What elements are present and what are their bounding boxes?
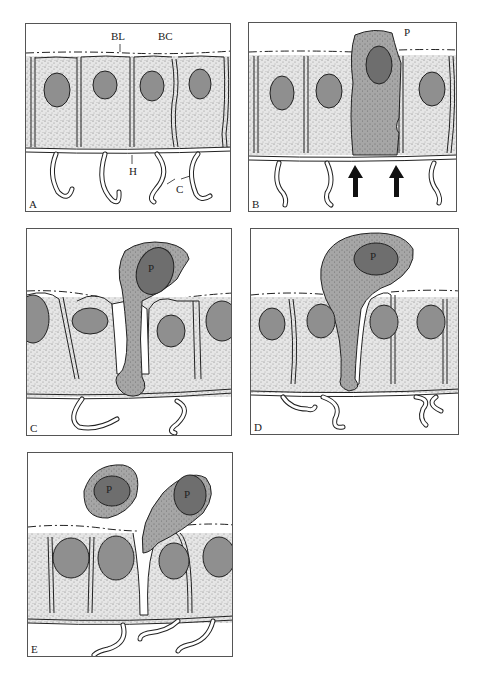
label-phagocyte: P	[404, 27, 410, 38]
panel-b: P B	[248, 22, 457, 212]
panel-d-drawing	[251, 229, 459, 435]
panel-e: P P E	[27, 452, 233, 657]
panel-d: P D	[250, 228, 459, 435]
label-basal-lamina: BL	[111, 31, 125, 42]
panel-letter: B	[252, 198, 259, 210]
panel-c-drawing	[27, 229, 232, 436]
label-phagocyte: P	[148, 263, 154, 274]
panel-c: P C	[26, 228, 232, 436]
panel-letter: A	[29, 198, 37, 210]
label-phagocyte: P	[370, 251, 376, 262]
panel-letter: D	[254, 421, 262, 433]
panel-e-drawing	[28, 453, 233, 657]
panel-letter: C	[30, 422, 37, 434]
label-phagocyte-free: P	[106, 484, 112, 495]
arrow-icon	[348, 165, 404, 197]
panel-b-drawing	[249, 23, 457, 212]
label-body-cavity: BC	[158, 31, 173, 42]
panel-letter: E	[31, 643, 38, 655]
panel-a-drawing	[26, 24, 231, 212]
panel-a: BL BC H C A	[25, 23, 231, 212]
label-h: H	[129, 166, 137, 177]
label-c: C	[176, 184, 183, 195]
label-phagocyte-exiting: P	[184, 489, 190, 500]
